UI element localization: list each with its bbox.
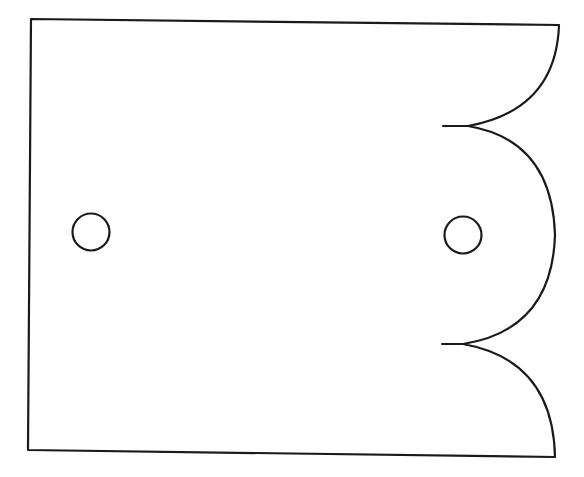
left-hole-icon — [73, 214, 110, 251]
right-hole-icon — [445, 217, 482, 254]
plate-diagram — [0, 0, 584, 477]
